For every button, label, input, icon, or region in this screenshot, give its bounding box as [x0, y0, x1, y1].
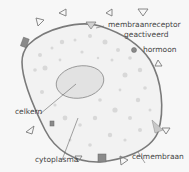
- label-nucleus: celkern: [15, 108, 42, 116]
- label-cytoplasm: cytoplasma: [35, 156, 78, 164]
- label-membrane: celmembraan: [132, 153, 184, 161]
- label-receptor: membraanreceptor: [108, 21, 181, 29]
- label-activated: geactiveerd: [124, 31, 169, 39]
- cell-diagram: membraanreceptor geactiveerd hormoon cel…: [0, 0, 189, 172]
- label-hormone: hormoon: [143, 46, 177, 54]
